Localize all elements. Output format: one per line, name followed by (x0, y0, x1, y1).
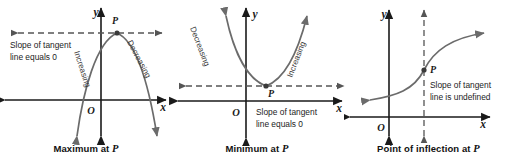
tangent-note-line-2: line is undefined (430, 92, 491, 102)
panel-maximum-graph: P y x O Slope of tangent line equals 0 I… (0, 0, 172, 146)
increasing-label: Increasing (72, 50, 92, 89)
increasing-label: Increasing (285, 40, 307, 79)
critical-point-marker (421, 67, 426, 72)
panel-inflection: P y x O Slope of tangent line is undefin… (344, 0, 513, 166)
origin-label: O (377, 122, 385, 133)
origin-label: O (232, 107, 240, 118)
caption-text: Maximum at (53, 143, 112, 154)
panel-minimum: P y x O Slope of tangent line equals 0 D… (168, 0, 346, 166)
origin-label: O (87, 105, 95, 116)
caption-text: Minimum at (225, 143, 282, 154)
caption-text: Point of inflection at (377, 143, 473, 154)
caption-point-label: P (473, 143, 480, 154)
caption-point-label: P (112, 143, 119, 154)
point-label-p: P (268, 88, 275, 99)
calculus-critical-points-figure: P y x O Slope of tangent line equals 0 I… (0, 0, 513, 166)
caption-point-label: P (282, 143, 289, 154)
point-label-p: P (430, 64, 437, 75)
panel-maximum: P y x O Slope of tangent line equals 0 I… (0, 0, 172, 166)
panel-minimum-graph: P y x O Slope of tangent line equals 0 D… (168, 0, 346, 146)
x-axis-label: x (479, 118, 486, 130)
critical-point-marker (114, 30, 119, 35)
y-axis-label: y (250, 8, 258, 21)
y-axis-label: y (379, 8, 387, 21)
y-axis-label: y (91, 6, 99, 19)
panel-caption-minimum: Minimum at P (168, 143, 346, 154)
x-axis-label: x (335, 102, 342, 114)
decreasing-label: Decreasing (125, 39, 153, 80)
x-axis-label: x (159, 101, 166, 113)
point-label-p: P (112, 15, 119, 26)
tangent-note-line-1: Slope of tangent (10, 40, 72, 50)
panel-caption-inflection: Point of inflection at P (344, 143, 513, 154)
tangent-note-line-1: Slope of tangent (256, 107, 318, 117)
panel-inflection-graph: P y x O Slope of tangent line is undefin… (344, 0, 513, 146)
tangent-note-line-2: line equals 0 (10, 52, 57, 62)
tangent-note-line-2: line equals 0 (256, 119, 303, 129)
tangent-note-line-1: Slope of tangent (430, 80, 492, 90)
decreasing-label: Decreasing (188, 25, 211, 67)
panel-caption-maximum: Maximum at P (0, 143, 172, 154)
